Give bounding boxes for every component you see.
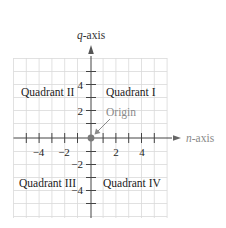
horizontal-axis xyxy=(14,133,182,143)
x-tick-label: 2 xyxy=(113,146,119,158)
quadrant-iv-label: Quadrant IV xyxy=(103,177,161,189)
y-tick-label: 4 xyxy=(78,79,84,91)
x-tick-label: −2 xyxy=(58,146,70,158)
quadrant-i-label: Quadrant I xyxy=(106,86,156,98)
axis-arrow-right-icon xyxy=(173,135,181,141)
vertical-axis xyxy=(86,45,96,218)
quadrant-ii-label: Quadrant II xyxy=(21,86,74,98)
y-tick-label: −2 xyxy=(71,158,83,170)
y-tick-label: 2 xyxy=(78,105,84,117)
horizontal-axis-label: n-axis xyxy=(186,132,215,144)
axis-arrow-up-icon xyxy=(88,45,94,54)
x-tick-label: −4 xyxy=(33,146,45,158)
origin-label: Origin xyxy=(106,106,136,119)
origin-dot xyxy=(88,135,95,142)
x-tick-label: 4 xyxy=(139,146,145,158)
coordinate-plane-diagram: q-axis n-axis −4 −2 2 4 4 2 −2 −4 Quadra… xyxy=(0,0,226,228)
coordinate-plane-svg: q-axis n-axis −4 −2 2 4 4 2 −2 −4 Quadra… xyxy=(0,0,226,228)
quadrant-iii-label: Quadrant III xyxy=(19,177,76,189)
vertical-axis-label: q-axis xyxy=(77,29,106,42)
